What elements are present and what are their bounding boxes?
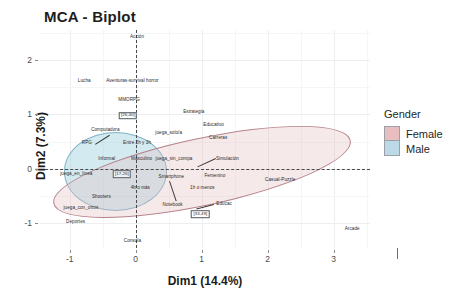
gridline-horizontal bbox=[40, 60, 370, 61]
legend-item-male[interactable]: Male bbox=[384, 141, 443, 156]
point-label: RPG bbox=[82, 141, 92, 146]
legend-label-female: Female bbox=[406, 128, 443, 140]
gridline-horizontal bbox=[40, 223, 370, 224]
point-label: [17,26] bbox=[113, 171, 132, 179]
point-label: Simulación bbox=[216, 156, 239, 161]
y-tick-label: 1 bbox=[12, 109, 32, 119]
x-tick-mark bbox=[268, 250, 269, 253]
point-label: 4h o más bbox=[131, 185, 150, 190]
gridline-vertical bbox=[169, 30, 170, 248]
mca-biplot-screenshot: MCA - Biplot AcciónLuchaAventuras-surviv… bbox=[0, 0, 451, 300]
gridline-vertical bbox=[367, 30, 368, 248]
point-label: [33,49] bbox=[191, 210, 210, 218]
point-label: Aventuras-survival horror bbox=[106, 78, 158, 83]
x-tick-mark bbox=[136, 250, 137, 253]
point-label: juega_sin_compa bbox=[156, 156, 193, 161]
point-label: Masculino bbox=[131, 156, 152, 161]
legend-swatch-male bbox=[384, 141, 400, 156]
legend-swatch-female bbox=[384, 126, 400, 141]
y-tick-mark bbox=[35, 169, 38, 170]
x-tick-label: 1 bbox=[199, 254, 204, 264]
gridline-horizontal bbox=[40, 33, 370, 34]
point-label: Lucha bbox=[78, 78, 91, 83]
point-label: juega_en_línea bbox=[60, 172, 92, 177]
y-tick-label: 2 bbox=[12, 55, 32, 65]
x-tick-label: 3 bbox=[331, 254, 336, 264]
point-label: Computadora bbox=[91, 128, 119, 133]
point-label: Shooters bbox=[92, 195, 111, 200]
x-tick-label: -1 bbox=[66, 254, 74, 264]
point-label: juega_con_otros bbox=[64, 206, 99, 211]
y-tick-mark bbox=[35, 60, 38, 61]
point-label: Educac bbox=[216, 202, 232, 207]
point-label: Consola bbox=[124, 239, 141, 244]
reference-line-vertical bbox=[136, 30, 137, 248]
point-label: Arcade bbox=[345, 227, 360, 232]
x-tick-mark bbox=[70, 250, 71, 253]
point-label: Femenino bbox=[204, 173, 225, 178]
point-label: Smartphone bbox=[159, 174, 185, 179]
point-label: Entre 2h y 3h bbox=[123, 141, 151, 146]
point-label: Informal bbox=[98, 156, 115, 161]
y-tick-mark bbox=[35, 114, 38, 115]
point-label: Deportes bbox=[66, 220, 85, 225]
point-label: MMORPG bbox=[118, 97, 139, 102]
x-axis-label: Dim1 (14.4%) bbox=[40, 274, 370, 288]
point-label: Educativo bbox=[203, 123, 224, 128]
gridline-horizontal bbox=[40, 87, 370, 88]
gridline-vertical bbox=[70, 30, 71, 248]
point-label: juega_solo/a bbox=[155, 131, 182, 136]
x-tick-label: 0 bbox=[133, 254, 138, 264]
point-label: 1h o menos bbox=[190, 186, 215, 191]
plot-panel: AcciónLuchaAventuras-survival horrorMMOR… bbox=[40, 30, 370, 248]
x-tick-mark bbox=[202, 250, 203, 253]
y-axis-label: Dim2 (7.3%) bbox=[34, 61, 48, 231]
point-label: Carreras bbox=[209, 136, 227, 141]
legend-title: Gender bbox=[384, 108, 443, 120]
y-tick-label: -1 bbox=[12, 218, 32, 228]
x-tick-mark bbox=[334, 250, 335, 253]
point-label: [26,40] bbox=[118, 112, 137, 120]
legend: Gender Female Male bbox=[384, 108, 443, 156]
y-tick-label: 0 bbox=[12, 164, 32, 174]
legend-label-male: Male bbox=[406, 143, 430, 155]
point-label: Acción bbox=[130, 35, 144, 40]
point-label: Casual-Puzzle bbox=[265, 178, 295, 183]
point-label: Notebook bbox=[163, 203, 183, 208]
x-tick-label: 2 bbox=[265, 254, 270, 264]
page-title: MCA - Biplot bbox=[44, 8, 136, 25]
y-tick-mark bbox=[35, 223, 38, 224]
legend-item-female[interactable]: Female bbox=[384, 126, 443, 141]
stray-tick-mark bbox=[397, 248, 398, 259]
gridline-horizontal bbox=[40, 114, 370, 115]
point-label: Estrategia bbox=[183, 109, 204, 114]
